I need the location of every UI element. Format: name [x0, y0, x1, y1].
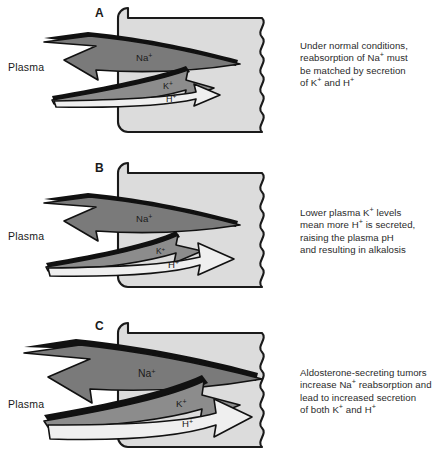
panel-c: Na+ K+ H+ C Plasma Aldosterone-secreting…	[0, 315, 448, 470]
caption-b-line-3: raising the plasma pH	[300, 232, 394, 243]
caption-a-line-4: of K+ and H+	[300, 77, 354, 88]
caption-c-line-3: lead to increased secretion	[300, 392, 416, 403]
plasma-label-c: Plasma	[8, 398, 44, 410]
plasma-label-a: Plasma	[8, 61, 44, 73]
panel-letter-c: C	[95, 319, 104, 333]
caption-a: Under normal conditions, reabsorption of…	[300, 40, 448, 90]
caption-c: Aldosterone-secreting tumors increase Na…	[300, 367, 448, 417]
caption-c-line-1: Aldosterone-secreting tumors	[300, 367, 427, 378]
caption-a-line-1: Under normal conditions,	[300, 40, 408, 51]
caption-b-line-2: mean more H+ is secreted,	[300, 219, 415, 230]
panel-letter-b: B	[95, 161, 104, 175]
caption-a-line-2: reabsorption of Na+ must	[300, 52, 408, 63]
caption-c-line-2: increase Na+ reabsorption and	[300, 379, 432, 390]
caption-b-line-1: Lower plasma K+ levels	[300, 207, 401, 218]
figure-renal-tubule-ion-transport: Na+ K+ H+ A Plasma Under normal conditio…	[0, 0, 448, 470]
caption-b-line-4: and resulting in alkalosis	[300, 244, 406, 255]
panel-letter-a: A	[95, 6, 104, 20]
panel-a: Na+ K+ H+ A Plasma Under normal conditio…	[0, 0, 448, 155]
panel-b: Na+ K+ H+ B Plasma Lower plasma K+ level…	[0, 155, 448, 310]
plasma-label-b: Plasma	[8, 230, 44, 242]
caption-c-line-4: of both K+ and H+	[300, 404, 376, 415]
caption-b: Lower plasma K+ levels mean more H+ is s…	[300, 207, 448, 257]
